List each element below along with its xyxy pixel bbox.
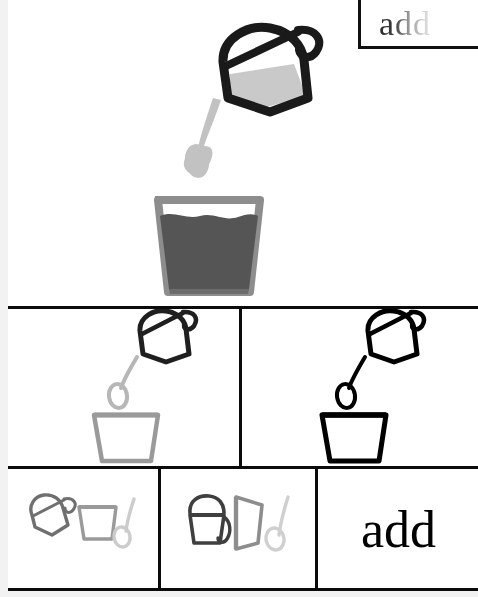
letter-d-first	[236, 497, 262, 549]
cup-outline	[94, 415, 158, 461]
word-panel-text: add	[319, 469, 478, 590]
outline-gray-panel	[8, 309, 240, 467]
cup-outline	[322, 415, 386, 461]
pour-stream	[349, 357, 365, 388]
rule-bottom	[8, 588, 478, 591]
outline-black-panel	[243, 309, 478, 467]
drop-bulb	[112, 526, 131, 548]
separated-shapes-panel	[8, 469, 160, 597]
cup-shape	[79, 507, 116, 539]
letter-a-arc	[190, 496, 224, 513]
hero-panel	[8, 0, 478, 308]
drop-stem	[126, 499, 134, 531]
rule-bottom-divider-2	[315, 469, 318, 590]
rule-bottom-divider-1	[158, 469, 161, 590]
word-panel: add	[319, 469, 478, 590]
pour-stream	[121, 357, 137, 388]
rule-middle-divider	[239, 309, 242, 467]
morph-letters-panel	[162, 469, 314, 597]
drop-bulb	[107, 383, 128, 409]
glass-base-shade	[169, 289, 249, 294]
page-canvas: add	[0, 0, 478, 597]
jug-handle-hook	[64, 499, 75, 513]
letter-d-second-bowl	[264, 527, 286, 552]
jug-rim-line	[33, 500, 64, 516]
drop-bulb	[335, 383, 356, 409]
jug-body-outline	[368, 311, 417, 362]
glass-liquid	[160, 214, 258, 289]
jug-body-outline	[140, 311, 189, 362]
